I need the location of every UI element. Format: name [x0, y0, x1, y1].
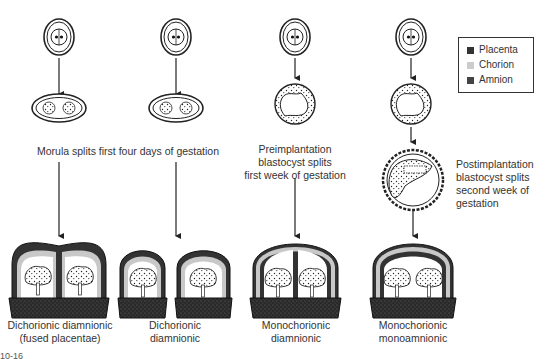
figure-number: 10-16: [0, 351, 23, 359]
outcome-1-label: Dichorionic diamnionic (fused placentae): [0, 319, 120, 345]
label-line: monoamnionic: [367, 332, 459, 345]
label-line: Dichorionic diamnionic: [0, 319, 120, 332]
legend-item-chorion: Chorion: [467, 59, 514, 71]
label-line: Monochorionic: [250, 319, 342, 332]
label-line: second week of: [456, 184, 552, 197]
column-4: [383, 19, 443, 236]
label-line: Dichorionic: [130, 319, 220, 332]
preimplantation-label: Preimplantation blastocyst splits first …: [240, 143, 350, 182]
outcome-3-label: Monochorionic diamnionic: [250, 319, 342, 345]
outcome-4-label: Monochorionic monoamnionic: [367, 319, 459, 345]
label-line: (fused placentae): [0, 332, 120, 345]
label-line: Preimplantation: [240, 143, 350, 156]
chorion-swatch-icon: [467, 62, 474, 69]
label-line: first week of gestation: [240, 169, 350, 182]
legend-label: Chorion: [479, 59, 514, 71]
label-line: Monochorionic: [367, 319, 459, 332]
placenta-swatch-icon: [467, 47, 474, 54]
column-2: [149, 19, 203, 236]
outcome-3-illustration: [250, 244, 341, 318]
label-line: blastocyst splits: [240, 156, 350, 169]
outcome-1-illustration: [9, 243, 109, 318]
postimplantation-label: Postimplantation blastocyst splits secon…: [456, 158, 552, 210]
label-line: gestation: [456, 197, 552, 210]
amnion-swatch-icon: [467, 77, 474, 84]
legend: Placenta Chorion Amnion: [458, 37, 534, 93]
column-3: [275, 19, 315, 236]
column-1: [32, 19, 86, 236]
legend-item-placenta: Placenta: [467, 44, 518, 56]
outcome-4-illustration: [370, 244, 456, 318]
label-line: diamnionic: [130, 332, 220, 345]
label-line: blastocyst splits: [456, 171, 552, 184]
outcome-2-label: Dichorionic diamnionic: [130, 319, 220, 345]
legend-item-amnion: Amnion: [467, 74, 513, 86]
label-line: Postimplantation: [456, 158, 552, 171]
morula-split-label: Morula splits first four days of gestati…: [18, 145, 238, 158]
legend-label: Placenta: [479, 44, 518, 56]
legend-label: Amnion: [479, 74, 513, 86]
label-line: diamnionic: [250, 332, 342, 345]
outcome-2-illustration: [118, 251, 232, 318]
